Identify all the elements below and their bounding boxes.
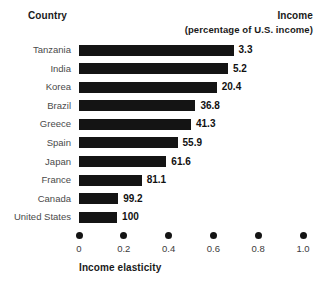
bar-row: France81.1 <box>0 172 332 191</box>
column-header-income: Income <box>277 10 313 21</box>
bar <box>79 100 195 111</box>
bar-row-country-label: Spain <box>0 137 71 148</box>
bar-row-country-label: Canada <box>0 193 71 204</box>
bar <box>79 82 217 93</box>
bar-value-label: 99.2 <box>123 193 142 204</box>
bar-row: Greece41.3 <box>0 116 332 135</box>
bar-value-label: 41.3 <box>196 118 215 129</box>
x-axis: 00.20.40.60.81.0 <box>0 232 332 262</box>
bar-row-country-label: Brazil <box>0 100 71 111</box>
bar-row: Tanzania3.3 <box>0 42 332 61</box>
x-axis-tick-dot <box>300 232 307 239</box>
bar-value-label: 61.6 <box>171 156 190 167</box>
x-axis-tick-label: 0.4 <box>162 243 175 254</box>
bar <box>79 45 234 56</box>
bar-row: Korea20.4 <box>0 79 332 98</box>
x-axis-tick-dot <box>76 232 83 239</box>
bar-row-country-label: Greece <box>0 118 71 129</box>
bar-row: Brazil36.8 <box>0 98 332 117</box>
bar-row: United States100 <box>0 209 332 228</box>
bar-row-country-label: Tanzania <box>0 44 71 55</box>
bar-value-label: 100 <box>122 211 139 222</box>
x-axis-tick-label: 0.6 <box>207 243 220 254</box>
x-axis-tick-dot <box>255 232 262 239</box>
bar-value-label: 36.8 <box>200 100 219 111</box>
bar-row-country-label: United States <box>0 211 71 222</box>
bar <box>79 156 166 167</box>
bar <box>79 137 178 148</box>
x-axis-title: Income elasticity <box>79 262 161 273</box>
bar-row: India5.2 <box>0 61 332 80</box>
x-axis-tick-dot <box>120 232 127 239</box>
bar-value-label: 20.4 <box>222 81 241 92</box>
x-axis-tick-label: 0 <box>76 243 81 254</box>
bar <box>79 119 191 130</box>
bar-rows: Tanzania3.3India5.2Korea20.4Brazil36.8Gr… <box>0 42 332 228</box>
bar-row: Japan61.6 <box>0 154 332 173</box>
x-axis-tick-dot <box>210 232 217 239</box>
column-header-country: Country <box>28 10 67 21</box>
bar-value-label: 5.2 <box>233 63 247 74</box>
bar-row-country-label: Korea <box>0 81 71 92</box>
bar <box>79 193 118 204</box>
bar-value-label: 55.9 <box>183 137 202 148</box>
bar-value-label: 81.1 <box>147 174 166 185</box>
bar <box>79 175 142 186</box>
x-axis-tick-label: 0.8 <box>252 243 265 254</box>
x-axis-tick-label: 0.2 <box>117 243 130 254</box>
bar-row-country-label: Japan <box>0 156 71 167</box>
bar-row: Spain55.9 <box>0 135 332 154</box>
income-elasticity-chart: Country Income (percentage of U.S. incom… <box>0 0 332 287</box>
bar-row-country-label: India <box>0 63 71 74</box>
bar-value-label: 3.3 <box>239 44 253 55</box>
x-axis-tick-dot <box>165 232 172 239</box>
bar-row: Canada99.2 <box>0 191 332 210</box>
bar <box>79 212 117 223</box>
bar <box>79 63 228 74</box>
column-header-income-sublabel: (percentage of U.S. income) <box>185 24 313 35</box>
x-axis-tick-label: 1.0 <box>296 243 309 254</box>
bar-row-country-label: France <box>0 174 71 185</box>
